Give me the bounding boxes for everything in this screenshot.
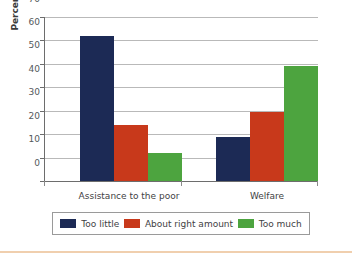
bar-welfare-too-little [216,137,250,182]
legend-label-too-little: Too little [81,219,119,229]
plot-area: Assistance to the poor Welfare [44,17,318,181]
legend-label-about-right-amount: About right amount [145,219,233,229]
y-tick-label-40: 40 [16,65,40,74]
bar-assistance-too-little [80,36,114,181]
legend-label-too-much: Too much [259,219,302,229]
x-tick-label-assistance: Assistance to the poor [54,191,204,201]
chart-figure: Percent of Americans 70 60 50 40 30 20 1… [0,0,352,257]
legend-swatch-icon-about-right-amount [124,219,140,228]
legend-item-about-right-amount[interactable]: About right amount [124,219,233,229]
y-tick-label-70: 70 [16,0,40,4]
chart-legend: Too little About right amount Too much [52,212,310,235]
legend-swatch-icon-too-little [60,219,76,228]
x-tick-middle [181,181,182,186]
y-tick-label-50: 50 [16,41,40,50]
x-tick-left [44,181,45,186]
x-tick-right [317,181,318,186]
y-axis-line [44,17,45,181]
bar-welfare-about-right [250,112,284,181]
y-tick-label-0: 0 [16,159,40,168]
y-tick-label-10: 10 [16,135,40,144]
legend-swatch-icon-too-much [238,219,254,228]
y-tick-label-30: 30 [16,88,40,97]
x-tick-label-welfare: Welfare [192,191,342,201]
bar-welfare-too-much [284,66,318,181]
gridline-70 [44,17,318,18]
footer-rule [0,251,352,253]
bar-assistance-too-much [148,153,182,181]
legend-item-too-much[interactable]: Too much [238,219,302,229]
y-tick-label-60: 60 [16,18,40,27]
bar-assistance-about-right [114,125,148,181]
y-tick-label-20: 20 [16,112,40,121]
legend-item-too-little[interactable]: Too little [60,219,119,229]
